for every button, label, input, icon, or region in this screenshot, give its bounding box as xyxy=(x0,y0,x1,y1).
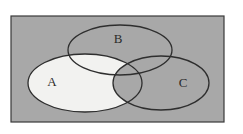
set-label-b: B xyxy=(114,31,123,46)
venn-diagram-canvas: A B C xyxy=(0,0,243,134)
venn-diagram-figure: A B C xyxy=(0,0,243,134)
set-label-a: A xyxy=(47,74,57,89)
set-label-c: C xyxy=(179,75,188,90)
